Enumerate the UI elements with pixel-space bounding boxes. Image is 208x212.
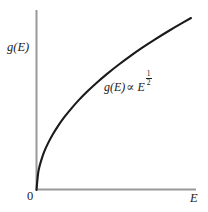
y-axis-label: g(E) (7, 41, 29, 54)
annotation-function: g(E) (104, 80, 125, 94)
sqrt-curve (37, 18, 192, 190)
proportional-to-symbol: ∝ (126, 80, 134, 94)
annotation-base: E (137, 80, 144, 94)
exponent-denominator: 2 (146, 78, 152, 87)
density-of-states-figure: g(E) E 0 g(E)∝E12 (0, 0, 208, 212)
plot-canvas (0, 0, 208, 212)
curve-annotation: g(E)∝E12 (104, 71, 152, 93)
origin-label: 0 (27, 190, 33, 203)
x-axis-label: E (190, 192, 198, 205)
exponent-numerator: 1 (146, 70, 152, 78)
exponent-fraction: 12 (146, 70, 152, 87)
